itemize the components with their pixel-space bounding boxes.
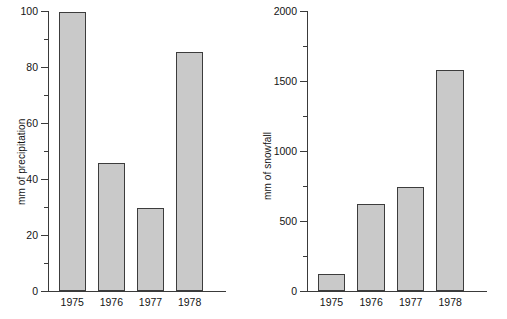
y-axis-minor-tick xyxy=(44,207,48,208)
y-axis-major-tick: 60 xyxy=(41,123,48,124)
bar-1977 xyxy=(137,208,164,291)
x-axis-category-label: 1978 xyxy=(439,296,462,308)
y-axis-minor-tick xyxy=(44,95,48,96)
x-axis-line xyxy=(48,291,226,292)
y-axis-minor-tick xyxy=(303,116,307,117)
bar-1975 xyxy=(318,274,346,291)
y-axis-tick-label: 80 xyxy=(26,61,38,73)
y-axis-major-tick: 500 xyxy=(300,221,307,222)
y-axis-tick-label: 100 xyxy=(20,5,38,17)
x-axis-category-label: 1977 xyxy=(139,296,162,308)
y-axis-major-tick: 80 xyxy=(41,67,48,68)
y-axis-tick-label: 1500 xyxy=(274,75,297,87)
y-axis-tick-label: 2000 xyxy=(274,5,297,17)
y-axis-title-snowfall: mm of snowfall xyxy=(262,132,273,200)
y-axis-minor-tick xyxy=(44,151,48,152)
x-axis-category-label: 1978 xyxy=(178,296,201,308)
y-axis-tick-label: 20 xyxy=(26,229,38,241)
y-axis-line xyxy=(48,11,49,291)
bar-1975 xyxy=(59,12,86,291)
x-axis-category-label: 1976 xyxy=(359,296,382,308)
plot-area-snowfall: 05001000150020001975197619771978 xyxy=(307,11,487,291)
y-axis-tick-label: 0 xyxy=(32,285,38,297)
x-axis-category-label: 1977 xyxy=(399,296,422,308)
bar-1977 xyxy=(397,187,425,291)
y-axis-tick-label: 40 xyxy=(26,173,38,185)
x-axis-line xyxy=(307,291,487,292)
y-axis-major-tick: 2000 xyxy=(300,11,307,12)
y-axis-major-tick: 1000 xyxy=(300,151,307,152)
y-axis-major-tick: 100 xyxy=(41,11,48,12)
bar-1978 xyxy=(436,70,464,291)
y-axis-minor-tick xyxy=(44,263,48,264)
bar-1976 xyxy=(357,204,385,291)
y-axis-tick-label: 60 xyxy=(26,117,38,129)
y-axis-tick-label: 500 xyxy=(279,215,297,227)
figure-root: mm of precipitation 02040608010019751976… xyxy=(0,0,507,319)
x-axis-category-label: 1976 xyxy=(100,296,123,308)
plot-area-precipitation: 0204060801001975197619771978 xyxy=(48,11,226,291)
y-axis-tick-label: 0 xyxy=(291,285,297,297)
chart-panel-precipitation: mm of precipitation 02040608010019751976… xyxy=(0,0,254,319)
x-axis-category-label: 1975 xyxy=(61,296,84,308)
y-axis-minor-tick xyxy=(44,39,48,40)
y-axis-tick-label: 1000 xyxy=(274,145,297,157)
y-axis-minor-tick xyxy=(303,46,307,47)
y-axis-title-precipitation: mm of precipitation xyxy=(16,119,27,205)
y-axis-major-tick: 0 xyxy=(41,291,48,292)
chart-panel-snowfall: mm of snowfall 0500100015002000197519761… xyxy=(253,0,507,319)
y-axis-minor-tick xyxy=(303,256,307,257)
y-axis-major-tick: 40 xyxy=(41,179,48,180)
y-axis-minor-tick xyxy=(303,186,307,187)
bar-1976 xyxy=(98,163,125,291)
y-axis-major-tick: 20 xyxy=(41,235,48,236)
x-axis-category-label: 1975 xyxy=(320,296,343,308)
y-axis-line xyxy=(307,11,308,291)
y-axis-major-tick: 0 xyxy=(300,291,307,292)
bar-1978 xyxy=(176,52,203,291)
y-axis-major-tick: 1500 xyxy=(300,81,307,82)
